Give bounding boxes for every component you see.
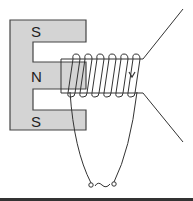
bottom-border [0,198,193,201]
current-direction-arrow [129,72,135,77]
pole-label-middle: N [31,68,42,85]
terminal-left [89,183,93,187]
cone-upper-edge [143,9,183,59]
ac-source-symbol [95,183,110,187]
cone-lower-edge [143,93,183,142]
terminal-right [112,182,116,186]
lead-wire-right [114,92,137,182]
pole-label-top: S [31,23,41,40]
pole-label-bottom: S [31,113,41,130]
loudspeaker-diagram: S N S [0,0,193,201]
lead-wire-left [70,92,91,183]
e-magnet [10,20,86,130]
